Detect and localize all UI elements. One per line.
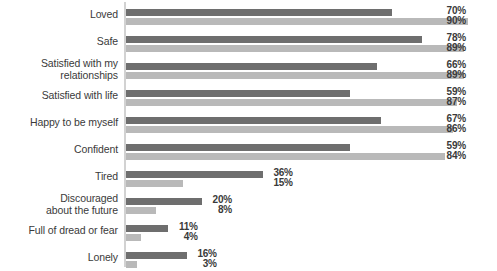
category-label-line: Happy to be myself	[0, 117, 118, 129]
category-label-line: relationships	[0, 70, 118, 82]
bar-series-2	[126, 99, 457, 106]
bar-series-1	[126, 252, 187, 259]
bar-series-1	[126, 63, 377, 70]
category-label-line: Tired	[0, 171, 118, 183]
category-label-line: Satisfied with life	[0, 90, 118, 102]
category-label-line: Full of dread or fear	[0, 225, 118, 237]
value-label-series-2: 8%	[218, 204, 232, 215]
bar-series-1	[126, 36, 422, 43]
chart-row: Confident59%84%	[0, 138, 497, 165]
category-label: Full of dread or fear	[0, 225, 118, 237]
category-label: Lonely	[0, 252, 118, 264]
category-label-line: Safe	[0, 36, 118, 48]
category-label: Tired	[0, 171, 118, 183]
bar-series-1	[126, 171, 263, 178]
category-label: Confident	[0, 144, 118, 156]
bar-series-1	[126, 198, 202, 205]
category-label-line: Lonely	[0, 252, 118, 264]
category-label: Safe	[0, 36, 118, 48]
bar-series-1	[126, 9, 392, 16]
value-label-series-2: 3%	[203, 258, 217, 269]
bar-series-2	[126, 45, 464, 52]
category-label: Loved	[0, 9, 118, 21]
bar-series-2	[126, 72, 464, 79]
chart-row: Full of dread or fear11%4%	[0, 219, 497, 246]
category-label-line: Discouraged	[0, 193, 118, 205]
value-label-series-2: 87%	[447, 96, 466, 107]
value-label-series-2: 89%	[447, 69, 466, 80]
chart-row: Safe78%89%	[0, 30, 497, 57]
bar-series-2	[126, 126, 453, 133]
value-label-series-2: 15%	[273, 177, 292, 188]
bar-series-2	[126, 261, 137, 268]
category-label: Discouragedabout the future	[0, 193, 118, 216]
bar-series-1	[126, 90, 350, 97]
bar-series-1	[126, 117, 381, 124]
chart-row: Happy to be myself67%86%	[0, 111, 497, 138]
category-label-line: Satisfied with my	[0, 58, 118, 70]
bar-series-2	[126, 234, 141, 241]
category-label-line: about the future	[0, 205, 118, 217]
bar-series-1	[126, 144, 350, 151]
bar-series-2	[126, 207, 156, 214]
bar-series-2	[126, 153, 445, 160]
bar-series-2	[126, 180, 183, 187]
value-label-series-2: 89%	[447, 42, 466, 53]
chart-row: Satisfied with life59%87%	[0, 84, 497, 111]
chart-row: Satisfied with myrelationships66%89%	[0, 57, 497, 84]
bar-series-1	[126, 225, 168, 232]
category-label: Satisfied with myrelationships	[0, 58, 118, 81]
bar-chart: Loved70%90%Safe78%89%Satisfied with myre…	[0, 0, 497, 271]
chart-row: Lonely16%3%	[0, 246, 497, 271]
value-label-series-2: 84%	[447, 150, 466, 161]
chart-row: Loved70%90%	[0, 3, 497, 30]
value-label-series-2: 4%	[184, 231, 198, 242]
bar-series-2	[126, 18, 468, 25]
category-label-line: Loved	[0, 9, 118, 21]
chart-row: Discouragedabout the future20%8%	[0, 192, 497, 219]
value-label-series-2: 86%	[447, 123, 466, 134]
chart-row: Tired36%15%	[0, 165, 497, 192]
category-label-line: Confident	[0, 144, 118, 156]
category-label: Happy to be myself	[0, 117, 118, 129]
category-label: Satisfied with life	[0, 90, 118, 102]
value-label-series-2: 90%	[447, 15, 466, 26]
